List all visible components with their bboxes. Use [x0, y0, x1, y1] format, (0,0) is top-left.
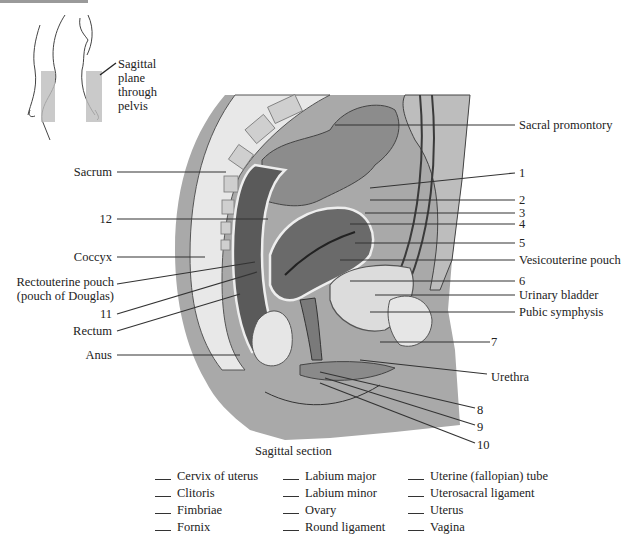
inset-label-line: Sagittal	[118, 57, 178, 71]
pubic-symphysis	[388, 296, 432, 346]
answer-blank[interactable]	[283, 503, 299, 514]
answer-key-term: Cervix of uterus	[177, 468, 258, 485]
answer-blank[interactable]	[283, 486, 299, 497]
answer-key-item[interactable]: Fimbriae	[155, 502, 258, 519]
answer-key-item[interactable]: Uterine (fallopian) tube	[408, 468, 548, 485]
answer-blank[interactable]	[155, 469, 171, 480]
inset-plane-left	[41, 71, 55, 122]
answer-key-term: Fornix	[177, 519, 210, 536]
inset-pointer	[100, 63, 116, 75]
answer-key-item[interactable]: Labium major	[283, 468, 385, 485]
answer-blank[interactable]	[283, 469, 299, 480]
label-6: 6	[519, 274, 525, 288]
inset-label: Sagittal plane through pelvis	[118, 57, 178, 113]
label-2: 2	[519, 193, 525, 207]
label-11: 11	[100, 307, 112, 321]
diagram-canvas: Sagittal plane through pelvis Sacrum 12 …	[0, 0, 634, 545]
answer-key-column-3: Uterine (fallopian) tube Uterosacral lig…	[408, 468, 548, 536]
answer-key-item[interactable]: Cervix of uterus	[155, 468, 258, 485]
label-vesicouterine-pouch: Vesicouterine pouch	[519, 253, 621, 267]
pelvis-illustration	[0, 0, 634, 545]
label-coccyx: Coccyx	[74, 250, 112, 264]
answer-key-term: Clitoris	[177, 485, 215, 502]
label-12: 12	[100, 212, 113, 226]
answer-blank[interactable]	[408, 486, 424, 497]
inset-label-line: plane	[118, 71, 178, 85]
caption-sagittal-section: Sagittal section	[255, 444, 332, 459]
answer-blank[interactable]	[155, 503, 171, 514]
inset-label-line: pelvis	[118, 99, 178, 113]
answer-blank[interactable]	[155, 520, 171, 531]
label-sacral-promontory: Sacral promontory	[519, 118, 612, 132]
label-7: 7	[491, 335, 497, 349]
inset-plane-right	[86, 71, 102, 122]
label-rectouterine-pouch: Rectouterine pouch	[16, 275, 114, 289]
answer-key-term: Ovary	[305, 502, 336, 519]
answer-key-term: Labium major	[305, 468, 376, 485]
answer-key-term: Round ligament	[305, 519, 385, 536]
answer-blank[interactable]	[408, 520, 424, 531]
answer-key-item[interactable]: Uterus	[408, 502, 548, 519]
answer-key-term: Uterine (fallopian) tube	[430, 468, 548, 485]
answer-key-item[interactable]: Uterosacral ligament	[408, 485, 548, 502]
answer-key-term: Uterosacral ligament	[430, 485, 534, 502]
label-urethra: Urethra	[491, 370, 529, 384]
label-urinary-bladder: Urinary bladder	[519, 288, 598, 302]
label-pubic-symphysis: Pubic symphysis	[519, 305, 603, 319]
answer-blank[interactable]	[283, 520, 299, 531]
label-10: 10	[477, 438, 490, 452]
answer-key-item[interactable]: Fornix	[155, 519, 258, 536]
label-8: 8	[477, 403, 483, 417]
answer-key-item[interactable]: Ovary	[283, 502, 385, 519]
label-4: 4	[519, 217, 525, 231]
answer-key-column-1: Cervix of uterus Clitoris Fimbriae Forni…	[155, 468, 258, 536]
answer-key-item[interactable]: Clitoris	[155, 485, 258, 502]
label-anus: Anus	[86, 348, 112, 362]
label-sacrum: Sacrum	[74, 165, 112, 179]
answer-key-term: Fimbriae	[177, 502, 222, 519]
label-1: 1	[519, 166, 525, 180]
label-9: 9	[477, 420, 483, 434]
answer-key-item[interactable]: Round ligament	[283, 519, 385, 536]
answer-blank[interactable]	[408, 469, 424, 480]
label-5: 5	[519, 236, 525, 250]
answer-key-term: Uterus	[430, 502, 463, 519]
answer-key-item[interactable]: Vagina	[408, 519, 548, 536]
label-rectum: Rectum	[73, 324, 112, 338]
answer-key-term: Vagina	[430, 519, 465, 536]
answer-blank[interactable]	[408, 503, 424, 514]
answer-key-column-2: Labium major Labium minor Ovary Round li…	[283, 468, 385, 536]
inset-label-line: through	[118, 85, 178, 99]
answer-key-term: Labium minor	[305, 485, 377, 502]
answer-key-item[interactable]: Labium minor	[283, 485, 385, 502]
label-pouch-of-douglas: (pouch of Douglas)	[17, 289, 114, 303]
answer-blank[interactable]	[155, 486, 171, 497]
